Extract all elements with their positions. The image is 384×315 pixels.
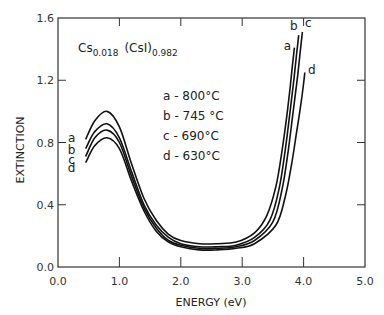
curve-label-left-d: d — [68, 161, 76, 175]
legend-entry-a: a - 800°C — [163, 89, 220, 103]
y-tick-label: 0.0 — [37, 261, 55, 274]
legend-entry-b: b - 745 °C — [163, 109, 224, 123]
composition-annotation: Cs0.018(CsI)0.982 — [78, 41, 178, 58]
y-axis-title: EXTINCTION — [14, 116, 27, 183]
curve-label-right-b: b — [290, 19, 298, 33]
y-tick-label: 1.2 — [37, 74, 55, 87]
x-tick-label: 1.0 — [111, 275, 129, 288]
x-axis-title: ENERGY (eV) — [176, 296, 247, 309]
y-tick-label: 0.4 — [37, 199, 55, 212]
x-tick-label: 2.0 — [172, 275, 190, 288]
formula-sub-1: 0.018 — [93, 48, 119, 58]
extinction-chart: 0.01.02.03.04.05.00.00.40.81.21.6 aabbcc… — [0, 0, 384, 315]
x-tick-label: 3.0 — [233, 275, 251, 288]
curve-label-right-d: d — [308, 63, 316, 77]
formula-main-1: Cs — [78, 41, 93, 55]
legend: a - 800°C b - 745 °C c - 690°C d - 630°C — [163, 89, 224, 163]
x-tick-label: 4.0 — [295, 275, 313, 288]
formula-main-2: (CsI) — [124, 41, 152, 55]
x-tick-label: 0.0 — [49, 275, 67, 288]
legend-entry-c: c - 690°C — [163, 129, 219, 143]
y-tick-label: 1.6 — [37, 12, 55, 25]
formula-sub-2: 0.982 — [152, 48, 178, 58]
curve-label-right-a: a — [284, 39, 291, 53]
x-tick-label: 5.0 — [356, 275, 374, 288]
y-tick-label: 0.8 — [37, 137, 55, 150]
legend-entry-d: d - 630°C — [163, 149, 220, 163]
curve-label-right-c: c — [305, 16, 312, 30]
svg-text:Cs0.018(CsI)0.982: Cs0.018(CsI)0.982 — [78, 41, 178, 58]
